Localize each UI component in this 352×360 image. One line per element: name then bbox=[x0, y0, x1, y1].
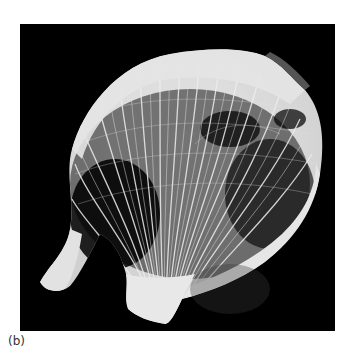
figure-caption: (b) bbox=[8, 334, 25, 348]
radiograph-image bbox=[20, 24, 335, 331]
bone-illustration bbox=[20, 24, 335, 331]
